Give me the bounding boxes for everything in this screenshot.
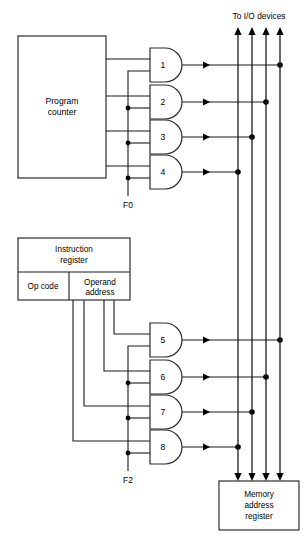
- instruction-register-label-line1: Instruction: [55, 245, 93, 254]
- signal-f0-line: [128, 71, 150, 196]
- and-gate-8-label: 8: [161, 442, 166, 452]
- operand-address-field-label-line1: Operand: [84, 278, 116, 287]
- junction-dot-f0-gate4: [126, 176, 131, 181]
- memory-address-register-label-line3: register: [245, 512, 273, 521]
- instruction-register-label-line2: register: [60, 256, 88, 265]
- signal-f0-label: F0: [123, 200, 133, 210]
- and-gate-5-label: 5: [161, 335, 166, 345]
- op-code-field-label: Op code: [28, 282, 59, 291]
- wire-operand-to-gate-5: [114, 300, 150, 334]
- and-gate-4: [150, 155, 182, 189]
- junction-dot-f2-gate6: [126, 381, 131, 386]
- junction-dot-f2-gate8: [126, 451, 131, 456]
- arrow-bus-3-down: [262, 473, 269, 481]
- program-counter-label-line1: Program: [46, 96, 79, 106]
- junction-dot-f2-gate7: [126, 416, 131, 421]
- junction-dot-f0-gate3: [126, 141, 131, 146]
- logic-diagram: Program counter F0 1 2 3: [0, 0, 305, 545]
- and-gate-4-label: 4: [161, 167, 166, 177]
- arrow-gate-8-output: [203, 444, 210, 451]
- arrow-bus-2-down: [248, 473, 255, 481]
- arrow-bus-1-down: [234, 473, 241, 481]
- arrow-bus-3-up: [262, 27, 269, 35]
- arrow-bus-1-up: [234, 27, 241, 35]
- and-gate-1: [150, 48, 182, 82]
- and-gate-3-label: 3: [161, 132, 166, 142]
- to-io-devices-label: To I/O devices: [232, 11, 285, 21]
- arrow-gate-2-output: [203, 99, 210, 106]
- and-gate-3: [150, 120, 182, 154]
- arrow-gate-6-output: [203, 374, 210, 381]
- diagram-canvas: Program counter F0 1 2 3: [0, 0, 305, 545]
- operand-address-field-label-line2: address: [85, 288, 114, 297]
- arrow-bus-2-up: [248, 27, 255, 35]
- arrow-gate-7-output: [203, 409, 210, 416]
- and-gate-6: [150, 360, 182, 394]
- arrow-gate-1-output: [203, 62, 210, 69]
- and-gate-8: [150, 430, 182, 464]
- program-counter-label-line2: counter: [48, 107, 77, 117]
- signal-f2-label: F2: [123, 475, 133, 485]
- junction-dot-f0-gate2: [126, 106, 131, 111]
- wire-operand-to-gate-7: [84, 300, 150, 406]
- and-gate-1-label: 1: [161, 60, 166, 70]
- signal-f2-line: [128, 346, 150, 471]
- arrow-bus-4-up: [276, 27, 283, 35]
- memory-address-register-label-line2: address: [244, 501, 273, 510]
- and-gate-5: [150, 323, 182, 357]
- memory-address-register-label-line1: Memory: [244, 490, 274, 499]
- and-gate-6-label: 6: [161, 372, 166, 382]
- arrow-gate-3-output: [203, 134, 210, 141]
- and-gate-2: [150, 85, 182, 119]
- and-gate-7-label: 7: [161, 407, 166, 417]
- wire-operand-to-gate-6: [104, 300, 150, 371]
- and-gate-2-label: 2: [161, 97, 166, 107]
- arrow-gate-4-output: [203, 169, 210, 176]
- arrow-bus-4-down: [276, 473, 283, 481]
- and-gate-7: [150, 395, 182, 429]
- arrow-gate-5-output: [203, 337, 210, 344]
